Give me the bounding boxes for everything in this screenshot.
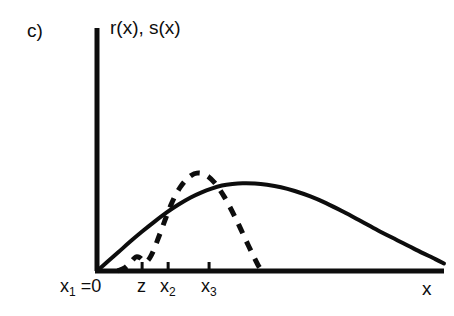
x-axis-ticks	[142, 262, 209, 269]
y-axis-label: r(x), s(x)	[110, 17, 181, 39]
figure-container: c) r(x), s(x) x x1 =0 z x2 x3	[0, 0, 454, 316]
panel-label: c)	[27, 20, 43, 42]
x-tick-label-z: z	[137, 276, 146, 297]
curves-group	[97, 173, 444, 271]
plot-canvas	[0, 0, 454, 316]
x-tick-label-x2: x2	[160, 276, 176, 297]
axes-group	[95, 28, 444, 271]
x-tick-label-x1: x1 =0	[60, 276, 101, 297]
x-tick-label-x3: x3	[201, 276, 217, 297]
x-axis-label: x	[422, 278, 432, 300]
curve-sx	[118, 173, 262, 271]
